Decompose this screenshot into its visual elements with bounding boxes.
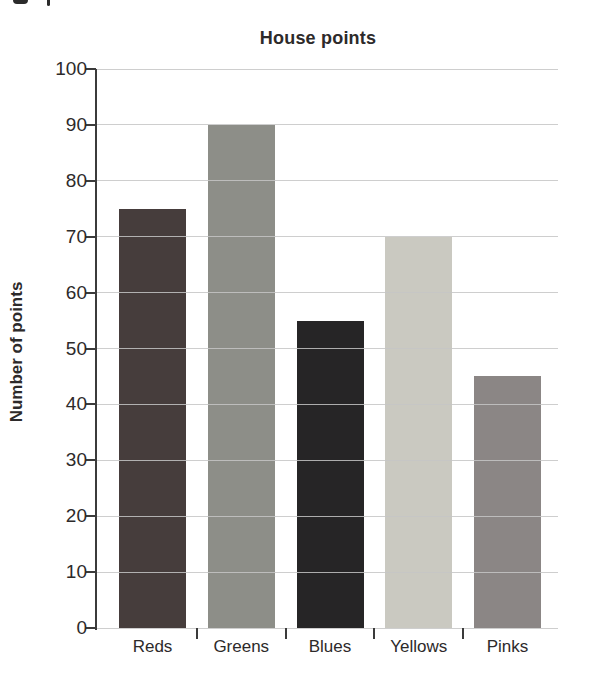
gridline-100 (96, 69, 558, 70)
gridline-10 (96, 572, 558, 573)
x-tick-label-reds: Reds (111, 637, 195, 657)
gridline-50 (96, 348, 558, 349)
y-tick-label-80: 80 (35, 171, 87, 191)
bar-yellows (385, 237, 452, 628)
bar-pinks (474, 376, 541, 628)
gridline-60 (96, 292, 558, 293)
x-axis-tick (285, 628, 287, 639)
gridline-40 (96, 404, 558, 405)
gridline-90 (96, 124, 558, 125)
y-axis-title: Number of points (7, 282, 27, 423)
scan-artifact (47, 0, 50, 6)
x-axis-tick (373, 628, 375, 639)
bar-greens (208, 125, 275, 628)
y-tick-label-0: 0 (35, 618, 87, 638)
bar-reds (119, 209, 186, 628)
y-tick-label-90: 90 (35, 115, 87, 135)
bar-blues (297, 321, 364, 628)
gridline-70 (96, 236, 558, 237)
x-tick-label-greens: Greens (199, 637, 283, 657)
chart-figure: House points Number of points 0102030405… (0, 0, 596, 685)
chart-title: House points (20, 28, 596, 49)
y-tick-label-100: 100 (35, 59, 87, 79)
y-tick-label-10: 10 (35, 562, 87, 582)
x-tick-label-pinks: Pinks (466, 637, 550, 657)
y-tick-label-60: 60 (35, 283, 87, 303)
x-tick-label-yellows: Yellows (377, 637, 461, 657)
y-tick-label-70: 70 (35, 227, 87, 247)
x-tick-label-blues: Blues (288, 637, 372, 657)
gridline-0 (96, 628, 558, 629)
y-tick-label-50: 50 (35, 339, 87, 359)
gridline-80 (96, 180, 558, 181)
gridline-30 (96, 460, 558, 461)
gridline-20 (96, 516, 558, 517)
scan-artifact (13, 0, 28, 4)
y-axis-line (95, 69, 97, 630)
y-tick-label-30: 30 (35, 450, 87, 470)
x-axis-tick (462, 628, 464, 639)
x-axis-tick (196, 628, 198, 639)
y-tick-label-20: 20 (35, 506, 87, 526)
y-tick-label-40: 40 (35, 394, 87, 414)
